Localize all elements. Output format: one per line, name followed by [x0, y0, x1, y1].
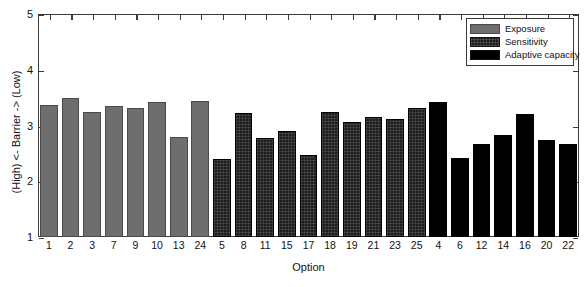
bar	[40, 105, 58, 237]
bar	[473, 144, 491, 237]
y-axis-tick-label: 1	[27, 232, 33, 243]
bar	[62, 98, 80, 237]
bar	[191, 101, 209, 237]
legend-label-sensitivity: Sensitivity	[505, 37, 548, 47]
x-axis-tick-label: 15	[281, 240, 293, 251]
bar	[300, 155, 318, 237]
bar	[451, 158, 469, 237]
x-axis-tick-label: 12	[476, 240, 488, 251]
x-axis-tick-label: 6	[457, 240, 463, 251]
chart-legend: Exposure Sensitivity Adaptive capacity	[466, 18, 574, 66]
x-axis-tick-label: 5	[219, 240, 225, 251]
y-axis-tick-label: 3	[27, 120, 33, 131]
legend-label-adaptive-capacity: Adaptive capacity	[505, 50, 579, 60]
x-axis-title: Option	[38, 261, 579, 273]
bar	[321, 112, 339, 237]
x-axis-tick-label: 23	[389, 240, 401, 251]
bar	[83, 112, 101, 237]
x-axis-tick-label: 17	[303, 240, 315, 251]
legend-swatch-adaptive-capacity	[470, 50, 500, 60]
bar	[213, 159, 231, 237]
bar	[278, 131, 296, 237]
x-axis-tick-label: 11	[260, 240, 271, 251]
x-axis-tick-label: 21	[368, 240, 380, 251]
x-axis-tick-label: 2	[68, 240, 74, 251]
x-axis-tick-label: 24	[194, 240, 206, 251]
bar-chart: 12345 (High) <- Barrier -> (Low) 1237910…	[0, 0, 587, 287]
bar	[538, 140, 556, 237]
legend-swatch-sensitivity	[470, 37, 500, 47]
legend-item-sensitivity: Sensitivity	[470, 36, 569, 48]
bar	[343, 122, 361, 237]
x-axis-tick-label: 4	[435, 240, 441, 251]
x-axis-tick-label: 13	[173, 240, 185, 251]
y-axis-tick	[39, 238, 44, 239]
legend-label-exposure: Exposure	[505, 24, 545, 34]
bar	[559, 144, 577, 237]
legend-item-adaptive-capacity: Adaptive capacity	[470, 49, 569, 61]
bar	[105, 106, 123, 237]
y-axis-tick-label: 4	[27, 64, 33, 75]
bar	[127, 108, 145, 237]
x-axis-tick-label: 1	[46, 240, 52, 251]
x-axis-tick-label: 18	[324, 240, 336, 251]
x-axis-tick-label: 20	[541, 240, 553, 251]
x-axis-tick-label: 3	[89, 240, 95, 251]
x-axis-tick-label: 9	[132, 240, 138, 251]
bar	[235, 113, 253, 237]
bar	[365, 117, 383, 237]
bar	[494, 135, 512, 237]
y-axis-tick-label: 2	[27, 176, 33, 187]
x-axis-tick-labels: 1237910132458111517181921232546121416202…	[38, 240, 579, 256]
bar	[148, 102, 166, 237]
x-axis-tick-label: 19	[346, 240, 358, 251]
x-axis-tick-label: 14	[497, 240, 509, 251]
x-axis-tick-label: 22	[562, 240, 574, 251]
y-axis-title: (High) <- Barrier -> (Low)	[10, 22, 22, 242]
legend-swatch-exposure	[470, 24, 500, 34]
x-axis-tick-label: 16	[519, 240, 531, 251]
x-axis-tick-label: 7	[111, 240, 117, 251]
bar	[386, 119, 404, 237]
x-axis-tick-label: 25	[411, 240, 423, 251]
bar	[408, 108, 426, 237]
legend-item-exposure: Exposure	[470, 23, 569, 35]
y-axis-tick-label: 5	[27, 9, 33, 20]
x-axis-tick-label: 8	[241, 240, 247, 251]
bar	[429, 102, 447, 237]
bar	[256, 138, 274, 237]
bar	[516, 114, 534, 237]
x-axis-tick-label: 10	[151, 240, 163, 251]
bar	[170, 137, 188, 237]
